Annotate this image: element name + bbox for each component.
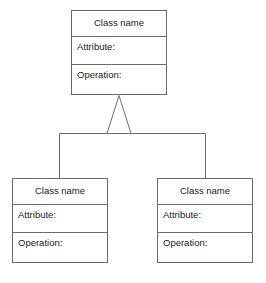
class-operations-compartment: Operation: xyxy=(13,233,107,262)
class-name-compartment: Class name xyxy=(72,11,166,37)
class-name-label: Class name xyxy=(94,18,144,28)
class-attributes-compartment: Attribute: xyxy=(72,37,166,66)
class-operations-compartment: Operation: xyxy=(72,65,166,94)
class-name-label: Class name xyxy=(180,186,230,196)
class-operations-compartment: Operation: xyxy=(158,233,252,262)
class-name-label: Class name xyxy=(35,186,85,196)
class-name-compartment: Class name xyxy=(13,179,107,205)
class-attributes-compartment: Attribute: xyxy=(158,205,252,234)
class-attributes-label: Attribute: xyxy=(18,210,56,220)
uml-class-diagram-canvas: Class name Attribute: Operation: Class n… xyxy=(0,0,266,283)
class-box-child-left[interactable]: Class name Attribute: Operation: xyxy=(12,178,108,263)
class-operations-label: Operation: xyxy=(77,70,121,80)
generalization-hollow-triangle-arrowhead xyxy=(107,96,131,134)
class-attributes-label: Attribute: xyxy=(77,42,115,52)
class-operations-label: Operation: xyxy=(18,238,62,248)
class-attributes-compartment: Attribute: xyxy=(13,205,107,234)
class-box-parent[interactable]: Class name Attribute: Operation: xyxy=(71,10,167,95)
class-box-child-right[interactable]: Class name Attribute: Operation: xyxy=(157,178,253,263)
class-operations-label: Operation: xyxy=(163,238,207,248)
class-name-compartment: Class name xyxy=(158,179,252,205)
class-attributes-label: Attribute: xyxy=(163,210,201,220)
